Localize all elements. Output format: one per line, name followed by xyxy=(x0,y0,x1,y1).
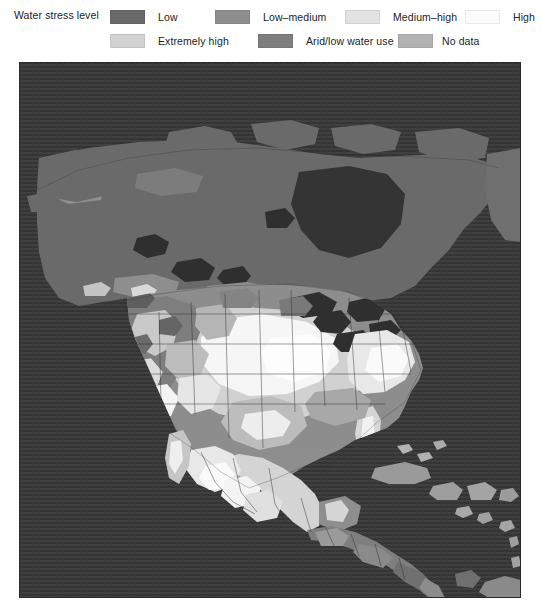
legend-swatch-high xyxy=(465,10,500,24)
legend-label-low-medium: Low–medium xyxy=(263,11,326,23)
legend-label-no-data: No data xyxy=(442,35,479,47)
legend-label-arid-low-water-use: Arid/low water use xyxy=(306,35,394,47)
legend-label-extremely-high: Extremely high xyxy=(158,35,229,47)
legend-label-high: High xyxy=(513,11,535,23)
legend-swatch-extremely-high xyxy=(110,34,145,48)
legend-label-medium-high: Medium–high xyxy=(393,11,457,23)
legend-swatch-low-medium xyxy=(215,10,250,24)
legend-title: Water stress level xyxy=(14,9,99,21)
map-svg xyxy=(19,62,521,598)
legend-swatch-no-data xyxy=(398,34,433,48)
map-canvas[interactable] xyxy=(19,62,521,598)
legend-swatch-medium-high xyxy=(345,10,380,24)
legend: Water stress level Low Low–medium Medium… xyxy=(0,0,541,56)
legend-swatch-arid-low-water-use xyxy=(258,34,293,48)
legend-label-low: Low xyxy=(158,11,178,23)
legend-swatch-low xyxy=(110,10,145,24)
